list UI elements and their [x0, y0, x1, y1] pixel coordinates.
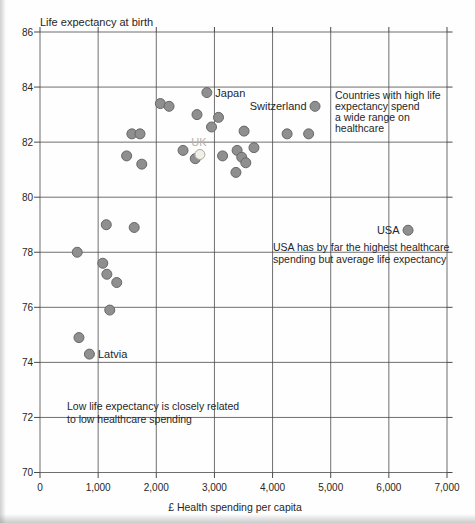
- x-tick-label: 4,000: [260, 482, 285, 493]
- x-tick-label: 2,000: [144, 482, 169, 493]
- x-tick-label: 3,000: [202, 482, 227, 493]
- y-tick-label: 84: [22, 82, 34, 93]
- x-tick-label: 7,000: [434, 482, 459, 493]
- point-label-latvia: Latvia: [98, 348, 128, 360]
- y-tick-label: 86: [22, 27, 34, 38]
- data-point: [239, 126, 249, 136]
- data-point: [129, 222, 139, 232]
- y-tick-label: 76: [22, 302, 34, 313]
- low-spend-note: Low life expectancy is closely related: [67, 400, 239, 412]
- data-point: [137, 159, 147, 169]
- data-point: [282, 129, 292, 139]
- data-point: [164, 101, 174, 111]
- y-tick-label: 80: [22, 192, 34, 203]
- point-label-uk: UK: [191, 136, 207, 148]
- data-point-latvia: [84, 349, 94, 359]
- scatter-chart: 01,0002,0003,0004,0005,0006,0007,0007072…: [0, 0, 475, 523]
- x-tick-label: 6,000: [376, 482, 401, 493]
- data-point: [72, 247, 82, 257]
- chart-title: Life expectancy at birth: [40, 16, 153, 28]
- x-tick-label: 5,000: [318, 482, 343, 493]
- data-point-switzerland: [310, 101, 320, 111]
- data-point: [213, 112, 223, 122]
- x-tick-label: 0: [37, 482, 43, 493]
- low-spend-note: to low healthcare spending: [67, 413, 192, 425]
- point-label-japan: Japan: [215, 87, 245, 99]
- data-point: [105, 305, 115, 315]
- point-label-usa: USA: [377, 224, 400, 236]
- data-point: [98, 258, 108, 268]
- data-point: [241, 158, 251, 168]
- x-axis-label: £ Health spending per capita: [168, 501, 302, 513]
- x-tick-label: 1,000: [86, 482, 111, 493]
- data-point: [231, 167, 241, 177]
- data-point-japan: [202, 88, 212, 98]
- data-point-usa: [403, 225, 413, 235]
- data-point: [135, 129, 145, 139]
- data-point: [192, 110, 202, 120]
- data-point: [249, 143, 259, 153]
- data-point: [74, 333, 84, 343]
- y-tick-label: 74: [22, 357, 34, 368]
- data-point: [178, 145, 188, 155]
- data-point: [112, 278, 122, 288]
- data-point: [101, 220, 111, 230]
- data-point: [304, 129, 314, 139]
- data-point: [218, 151, 228, 161]
- y-tick-label: 82: [22, 137, 34, 148]
- data-point-uk: [195, 150, 205, 160]
- data-point: [102, 269, 112, 279]
- data-point: [207, 122, 217, 132]
- data-point: [122, 151, 132, 161]
- point-label-switzerland: Switzerland: [250, 100, 307, 112]
- usa-note: spending but average life expectancy: [273, 253, 447, 265]
- y-tick-label: 78: [22, 247, 34, 258]
- high-spend-note: healthcare: [335, 122, 384, 134]
- usa-note: USA has by far the highest healthcare: [273, 241, 449, 253]
- chart-figure: 01,0002,0003,0004,0005,0006,0007,0007072…: [0, 0, 475, 523]
- y-tick-label: 70: [22, 467, 34, 478]
- y-tick-label: 72: [22, 412, 34, 423]
